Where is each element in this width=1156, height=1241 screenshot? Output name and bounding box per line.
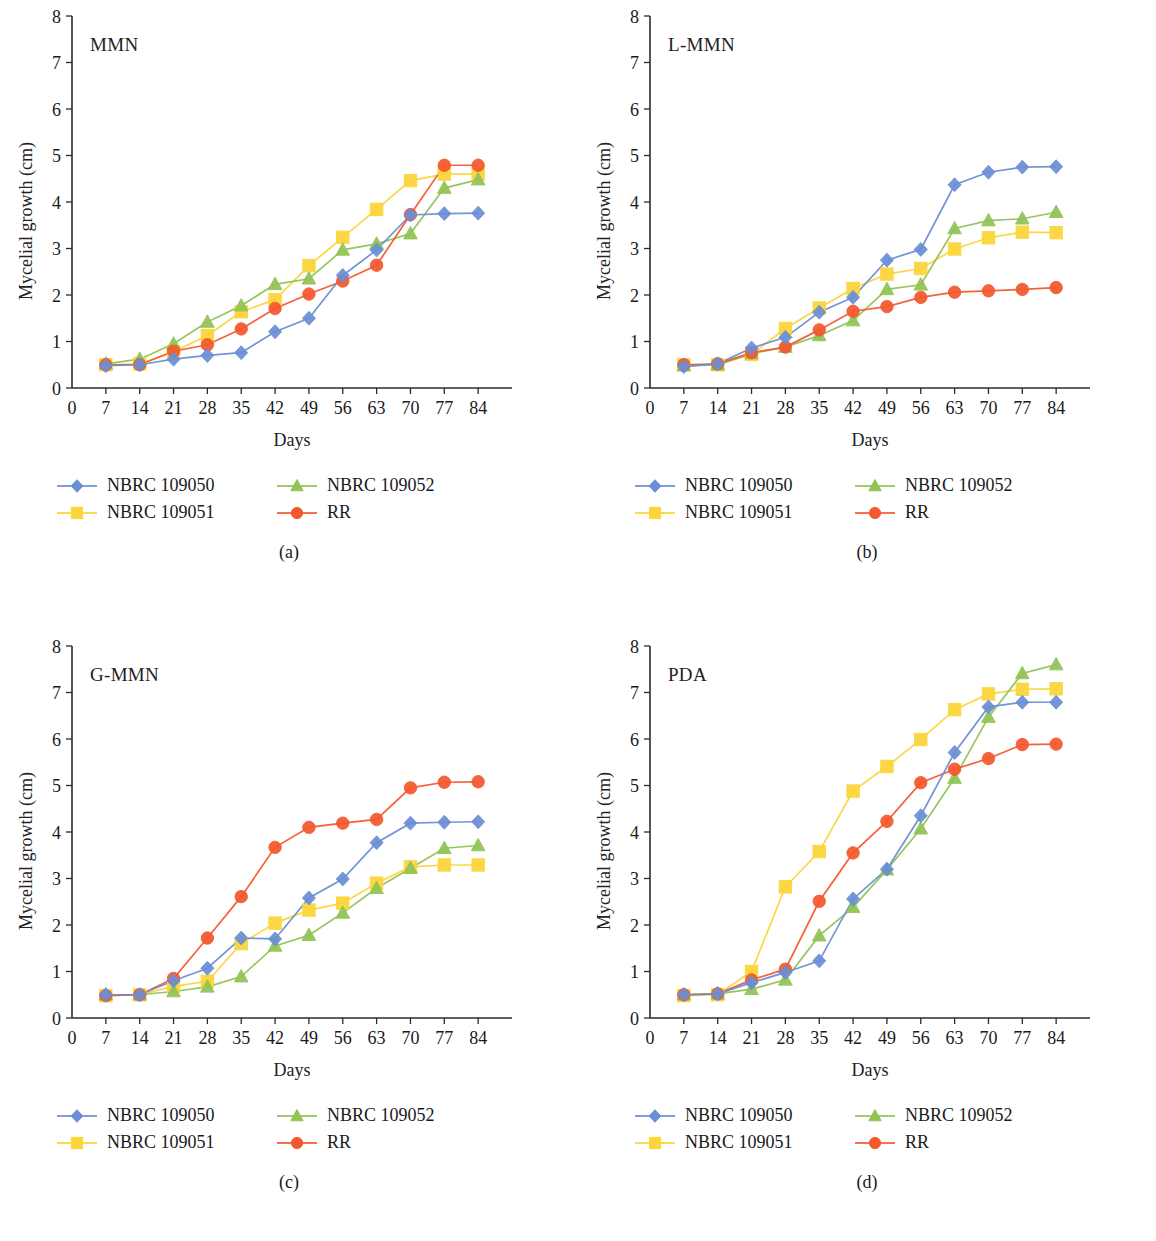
legend-label: NBRC 109052 (327, 1105, 435, 1126)
svg-text:2: 2 (52, 916, 61, 936)
legend-item-nbrc-109050[interactable]: NBRC 109050 (634, 1105, 844, 1126)
svg-text:35: 35 (232, 1028, 250, 1048)
legend-label: NBRC 109052 (905, 475, 1013, 496)
svg-text:4: 4 (630, 823, 639, 843)
legend-square-icon (634, 1134, 676, 1152)
series-line-rr (106, 782, 478, 996)
series-line-nbrc-109052 (106, 180, 478, 364)
svg-text:0: 0 (52, 1009, 61, 1029)
series-line-nbrc-109052 (106, 845, 478, 994)
legend-item-nbrc-109050[interactable]: NBRC 109050 (56, 475, 266, 496)
svg-text:42: 42 (844, 1028, 862, 1048)
legend-label: NBRC 109050 (107, 475, 215, 496)
legend-item-rr[interactable]: RR (854, 1132, 1064, 1153)
series-line-nbrc-109051 (684, 689, 1056, 996)
series-line-rr (684, 744, 1056, 995)
series-markers-nbrc-109051 (678, 683, 1063, 1002)
legend-item-nbrc-109052[interactable]: NBRC 109052 (854, 475, 1064, 496)
svg-text:84: 84 (469, 1028, 487, 1048)
legend-item-nbrc-109051[interactable]: NBRC 109051 (634, 502, 844, 523)
legend-item-nbrc-109052[interactable]: NBRC 109052 (276, 1105, 486, 1126)
svg-text:84: 84 (469, 398, 487, 418)
legend-item-nbrc-109050[interactable]: NBRC 109050 (56, 1105, 266, 1126)
y-axis-ticks-c: 012345678 (52, 637, 72, 1029)
svg-text:21: 21 (165, 1028, 183, 1048)
legend-triangle-icon (276, 477, 318, 495)
svg-text:5: 5 (630, 776, 639, 796)
svg-text:56: 56 (912, 1028, 930, 1048)
svg-text:1: 1 (630, 962, 639, 982)
legend-b: NBRC 109050NBRC 109052NBRC 109051RR (634, 472, 1064, 526)
svg-text:3: 3 (630, 239, 639, 259)
svg-text:8: 8 (52, 637, 61, 657)
svg-text:84: 84 (1047, 1028, 1065, 1048)
svg-text:77: 77 (1013, 398, 1031, 418)
legend-label: NBRC 109052 (905, 1105, 1013, 1126)
legend-label: NBRC 109052 (327, 475, 435, 496)
svg-text:1: 1 (52, 962, 61, 982)
svg-text:4: 4 (52, 823, 61, 843)
svg-text:42: 42 (844, 398, 862, 418)
svg-text:3: 3 (630, 869, 639, 889)
svg-text:56: 56 (912, 398, 930, 418)
series-markers-nbrc-109051 (100, 859, 485, 1002)
legend-item-nbrc-109051[interactable]: NBRC 109051 (56, 502, 266, 523)
svg-text:70: 70 (401, 398, 419, 418)
plot-svg-a: 012345678071421283542495663707784 (0, 2, 520, 434)
svg-text:5: 5 (630, 146, 639, 166)
svg-text:6: 6 (52, 730, 61, 750)
legend-item-rr[interactable]: RR (276, 1132, 486, 1153)
series-markers-nbrc-109050 (677, 160, 1062, 374)
svg-text:3: 3 (52, 869, 61, 889)
series-markers-rr (678, 738, 1063, 1001)
svg-text:1: 1 (52, 332, 61, 352)
svg-text:77: 77 (435, 398, 453, 418)
panel-caption-b: (b) (578, 542, 1156, 563)
legend-label: NBRC 109050 (685, 475, 793, 496)
svg-text:77: 77 (1013, 1028, 1031, 1048)
svg-text:49: 49 (878, 1028, 896, 1048)
svg-text:0: 0 (68, 1028, 77, 1048)
legend-item-nbrc-109052[interactable]: NBRC 109052 (276, 475, 486, 496)
series-markers-nbrc-109050 (99, 206, 484, 372)
svg-text:6: 6 (52, 100, 61, 120)
panel-caption-d: (d) (578, 1172, 1156, 1193)
y-axis-ticks-b: 012345678 (630, 7, 650, 399)
svg-text:63: 63 (946, 398, 964, 418)
legend-item-nbrc-109051[interactable]: NBRC 109051 (56, 1132, 266, 1153)
plot-svg-d: 012345678071421283542495663707784 (578, 632, 1098, 1064)
svg-text:8: 8 (630, 7, 639, 27)
svg-text:49: 49 (300, 1028, 318, 1048)
chart-panel-b: 012345678071421283542495663707784L-MMNMy… (578, 0, 1156, 610)
svg-text:84: 84 (1047, 398, 1065, 418)
series-markers-nbrc-109052 (677, 657, 1063, 1000)
y-axis-title-c: Mycelial growth (cm) (16, 772, 37, 930)
legend-diamond-icon (634, 477, 676, 495)
legend-label: NBRC 109051 (107, 502, 215, 523)
svg-text:49: 49 (300, 398, 318, 418)
legend-item-nbrc-109050[interactable]: NBRC 109050 (634, 475, 844, 496)
legend-item-rr[interactable]: RR (276, 502, 486, 523)
x-axis-ticks-b: 071421283542495663707784 (646, 388, 1066, 418)
svg-text:5: 5 (52, 776, 61, 796)
svg-text:21: 21 (743, 398, 761, 418)
series-markers-nbrc-109052 (99, 173, 485, 370)
legend-label: NBRC 109051 (685, 502, 793, 523)
svg-text:7: 7 (679, 398, 688, 418)
legend-square-icon (56, 1134, 98, 1152)
svg-text:28: 28 (776, 398, 794, 418)
legend-label: NBRC 109051 (107, 1132, 215, 1153)
legend-item-nbrc-109051[interactable]: NBRC 109051 (634, 1132, 844, 1153)
legend-label: NBRC 109050 (685, 1105, 793, 1126)
legend-item-nbrc-109052[interactable]: NBRC 109052 (854, 1105, 1064, 1126)
series-line-nbrc-109050 (684, 702, 1056, 994)
svg-text:35: 35 (810, 398, 828, 418)
svg-text:0: 0 (646, 1028, 655, 1048)
svg-text:21: 21 (165, 398, 183, 418)
x-axis-title-a: Days (72, 430, 512, 451)
panel-caption-a: (a) (0, 542, 578, 563)
x-axis-title-d: Days (650, 1060, 1090, 1081)
legend-item-rr[interactable]: RR (854, 502, 1064, 523)
panel-title-c: G-MMN (90, 664, 159, 686)
legend-a: NBRC 109050NBRC 109052NBRC 109051RR (56, 472, 486, 526)
